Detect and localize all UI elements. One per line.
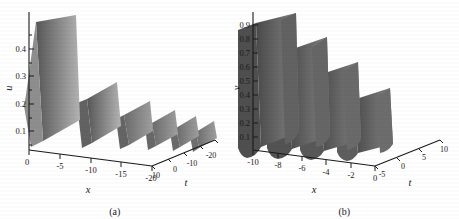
svg-text:-10: -10 [247, 157, 258, 167]
svg-text:0.3: 0.3 [15, 71, 26, 81]
axis-label-v: v [231, 85, 242, 90]
svg-text:-8: -8 [274, 160, 281, 170]
axis-label-x-b: x [310, 184, 316, 195]
t-ticklabels-a: 100 -10-20 [152, 151, 216, 180]
svg-text:0.7: 0.7 [239, 48, 250, 58]
svg-text:0.6: 0.6 [239, 62, 250, 72]
svg-text:5: 5 [422, 153, 426, 162]
svg-text:-10: -10 [85, 165, 96, 175]
surface-ridges-a [24, 15, 217, 152]
svg-text:0: 0 [372, 173, 376, 183]
panel-a: 0.10.2 0.30.4 0-5 -10-15 -20 100 -10-20 … [0, 0, 230, 219]
svg-text:-4: -4 [322, 167, 330, 177]
svg-text:0.2: 0.2 [239, 118, 250, 128]
svg-text:0.8: 0.8 [239, 34, 250, 44]
panel-b: 0.10.2 0.30.4 0.50.6 0.70.8 0.9 -10-8 -6… [230, 0, 459, 219]
svg-text:-5: -5 [378, 170, 385, 179]
svg-text:-20: -20 [206, 151, 217, 160]
svg-text:10: 10 [440, 145, 448, 154]
x-ticklabels-b: -10-8 -6-4 -20 [247, 157, 377, 183]
figure-container: 0.10.2 0.30.4 0-5 -10-15 -20 100 -10-20 … [0, 0, 459, 219]
svg-text:-10: -10 [187, 159, 198, 168]
svg-text:10: 10 [152, 171, 160, 180]
z-ticklabels-b: 0.10.2 0.30.4 0.50.6 0.70.8 0.9 [239, 20, 250, 142]
svg-text:-2: -2 [347, 170, 354, 180]
svg-text:0: 0 [25, 157, 29, 167]
axis-label-t-a: t [185, 177, 189, 188]
svg-text:0.4: 0.4 [15, 44, 26, 54]
surface-plot-b: 0.10.2 0.30.4 0.50.6 0.70.8 0.9 -10-8 -6… [230, 0, 459, 219]
svg-text:0.5: 0.5 [239, 76, 250, 86]
svg-text:-5: -5 [56, 161, 63, 171]
axis-label-t-b: t [408, 177, 412, 188]
svg-text:-15: -15 [115, 169, 126, 179]
svg-text:0.2: 0.2 [15, 99, 26, 109]
svg-text:0.3: 0.3 [239, 104, 250, 114]
axis-label-x-a: x [85, 184, 91, 195]
svg-text:0.9: 0.9 [239, 20, 250, 30]
svg-text:0.1: 0.1 [239, 132, 250, 142]
caption-a: (a) [0, 206, 230, 217]
svg-text:-6: -6 [298, 163, 305, 173]
z-ticklabels-a: 0.10.2 0.30.4 [15, 44, 26, 136]
svg-text:0: 0 [173, 165, 177, 174]
caption-b: (b) [230, 206, 459, 217]
svg-text:0: 0 [401, 162, 405, 171]
surface-walls-b [238, 13, 393, 161]
svg-text:0.4: 0.4 [239, 90, 250, 100]
svg-text:0.1: 0.1 [15, 126, 26, 136]
axis-label-u: u [3, 85, 14, 90]
surface-plot-a: 0.10.2 0.30.4 0-5 -10-15 -20 100 -10-20 … [0, 0, 229, 219]
